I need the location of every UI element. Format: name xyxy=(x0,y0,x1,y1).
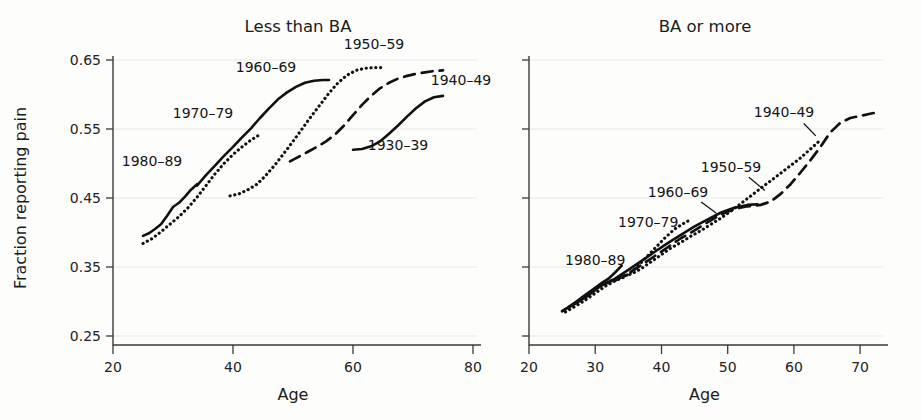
panel-title: BA or more xyxy=(659,17,752,36)
x-tick-label-2: 40 xyxy=(653,359,671,375)
y-tick-label-4: 0.65 xyxy=(70,52,101,68)
series-label-1970-79: 1970–79 xyxy=(618,214,678,230)
axis-spine xyxy=(113,56,481,345)
series-label-1940-49: 1940–49 xyxy=(431,72,491,88)
x-tick-label-4: 60 xyxy=(785,359,803,375)
panel-less-than-ba: 0.250.350.450.550.6520406080Less than BA… xyxy=(70,17,491,404)
x-tick-label-1: 40 xyxy=(224,359,242,375)
series-line-1950-59 xyxy=(230,68,383,196)
x-tick-label-1: 30 xyxy=(586,359,604,375)
x-tick-label-3: 50 xyxy=(719,359,737,375)
series-leader-1940-49 xyxy=(804,124,816,136)
series-label-1960-69: 1960–69 xyxy=(236,59,296,75)
y-tick-label-0: 0.25 xyxy=(70,328,101,344)
pain-by-age-chart: 0.250.350.450.550.6520406080Less than BA… xyxy=(0,0,922,420)
series-leader-1960-69 xyxy=(701,202,716,213)
series-label-1950-59: 1950–59 xyxy=(344,36,404,52)
x-tick-label-2: 60 xyxy=(344,359,362,375)
x-tick-label-3: 80 xyxy=(464,359,482,375)
series-label-1970-79: 1970–79 xyxy=(173,105,233,121)
x-axis-title: Age xyxy=(689,385,720,404)
panel-ba-or-more: 203040506070BA or moreAge1980–891970–791… xyxy=(520,17,888,404)
panel-title: Less than BA xyxy=(245,17,353,36)
series-line-1980-89 xyxy=(143,184,197,236)
x-tick-label-0: 20 xyxy=(520,359,538,375)
y-tick-label-1: 0.35 xyxy=(70,259,101,275)
y-axis-title: Fraction reporting pain xyxy=(11,107,30,289)
x-tick-label-5: 70 xyxy=(851,359,869,375)
y-tick-label-3: 0.55 xyxy=(70,121,101,137)
x-tick-label-0: 20 xyxy=(104,359,122,375)
x-axis-title: Age xyxy=(278,385,309,404)
figure-container: 0.250.350.450.550.6520406080Less than BA… xyxy=(0,0,922,420)
series-label-1980-89: 1980–89 xyxy=(122,153,182,169)
series-label-1940-49: 1940–49 xyxy=(754,104,814,120)
series-line-1970-79 xyxy=(143,135,260,244)
series-label-1950-59: 1950–59 xyxy=(701,159,761,175)
series-label-1960-69: 1960–69 xyxy=(648,184,708,200)
series-leader-1950-59 xyxy=(749,177,765,190)
y-tick-label-2: 0.45 xyxy=(70,190,101,206)
series-label-1930-39: 1930–39 xyxy=(368,137,428,153)
series-label-1980-89: 1980–89 xyxy=(565,252,625,268)
